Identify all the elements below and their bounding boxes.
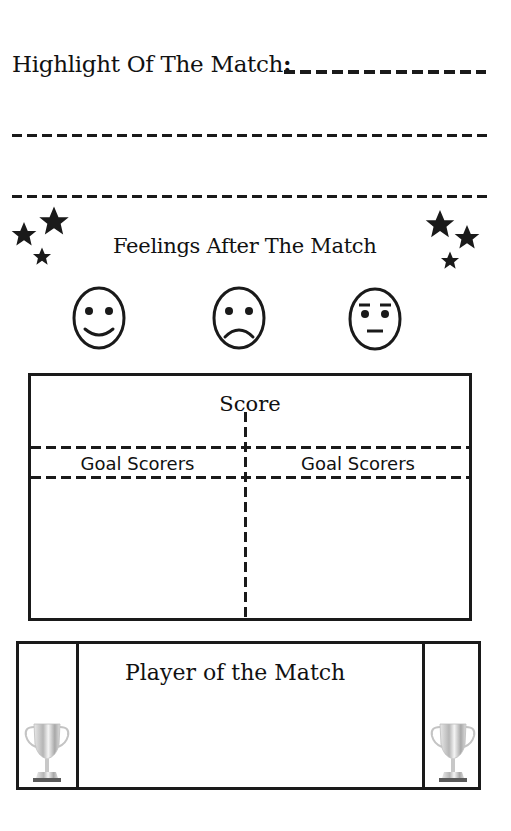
- right-trophy-panel: [422, 644, 481, 787]
- player-of-match-write-area[interactable]: [79, 694, 422, 786]
- star-cluster-right-icon: [420, 205, 485, 275]
- sad-face-icon[interactable]: [211, 285, 267, 351]
- player-of-match-box: Player of the Match: [16, 641, 481, 790]
- highlight-heading: Highlight Of The Match:: [12, 50, 291, 77]
- score-box: Score Goal Scorers Goal Scorers: [28, 373, 472, 621]
- goal-scorers-left-header: Goal Scorers: [31, 453, 244, 474]
- goal-scorers-bottom-line: [31, 476, 469, 479]
- score-title: Score: [31, 392, 469, 416]
- score-divider: [244, 412, 247, 618]
- highlight-blank-line-2[interactable]: [12, 134, 487, 137]
- trophy-icon: [429, 722, 477, 784]
- goal-scorers-left-area[interactable]: [31, 480, 243, 618]
- left-trophy-panel: [19, 644, 79, 787]
- star-cluster-left-icon: [8, 205, 73, 270]
- happy-face-icon[interactable]: [71, 285, 127, 351]
- player-of-match-title: Player of the Match: [125, 660, 345, 685]
- goal-scorers-right-area[interactable]: [248, 480, 469, 618]
- goal-scorers-right-header: Goal Scorers: [247, 453, 469, 474]
- neutral-face-icon[interactable]: [347, 286, 403, 352]
- highlight-blank-line-1[interactable]: [284, 70, 486, 74]
- highlight-label: Highlight Of The Match: [12, 51, 283, 77]
- goal-scorers-top-line: [31, 446, 469, 449]
- feelings-title: Feelings After The Match: [113, 234, 376, 258]
- trophy-icon: [23, 722, 71, 784]
- highlight-blank-line-3[interactable]: [12, 195, 487, 198]
